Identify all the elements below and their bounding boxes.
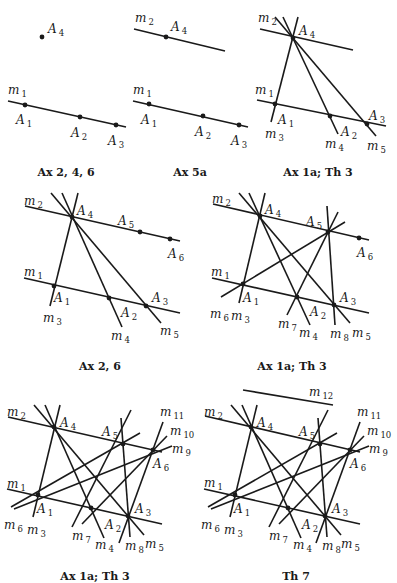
point-label-A1: A1: [242, 291, 259, 307]
point-label-A4: A4: [256, 416, 273, 432]
point-A2: [286, 506, 291, 511]
line-label-m9: m9: [172, 442, 191, 458]
panel-p4: m2m1m3m4m5A4A5A6A1A2A3Ax 2, 6: [24, 193, 184, 373]
panel-p5: m2m1m3m4m5m6m7m8A4A5A6A1A2A3Ax 1a; Th 3: [210, 192, 373, 373]
point-A1: [36, 493, 41, 498]
point-label-A6: A6: [152, 457, 169, 473]
point-A2: [201, 114, 206, 119]
line-label-m12: m12: [309, 385, 333, 401]
point-label-A5: A5: [117, 214, 134, 230]
point-label-A5: A5: [101, 425, 118, 441]
line-label-m3: m3: [231, 309, 250, 325]
point-A3: [332, 303, 337, 308]
point-label-A2: A2: [104, 518, 121, 534]
line-label-m4: m4: [111, 329, 130, 345]
line-m2: [213, 204, 369, 240]
panel-caption: Ax 1a; Th 3: [282, 166, 352, 179]
point-A4: [249, 425, 254, 430]
panel-caption: Ax 2, 4, 6: [36, 166, 95, 179]
point-A2: [107, 296, 112, 301]
panel-p6: m2m1m3m4m5m6m7m8m9m10m11A4A5A6A1A2A3Ax 1…: [4, 405, 194, 583]
figure-canvas: m1A4A1A2A3Ax 2, 4, 6m2m1A4A1A2A3Ax 5am2m…: [0, 0, 397, 583]
panel-p7: m12m2m1m3m4m5m6m7m8m9m10m11A4A5A6A1A2A3T…: [201, 385, 391, 583]
point-A5: [138, 230, 143, 235]
line-label-m2: m2: [7, 405, 26, 421]
panel-p1: m1A4A1A2A3Ax 2, 4, 6: [8, 22, 126, 179]
point-A2: [89, 506, 94, 511]
point-A1: [233, 493, 238, 498]
panel-caption: Ax 2, 6: [78, 360, 121, 373]
line-m8: [318, 418, 327, 537]
line-label-m10: m10: [367, 424, 391, 440]
line-label-m1: m1: [211, 265, 230, 281]
line-label-m1: m1: [204, 476, 223, 492]
point-label-A3: A3: [339, 291, 356, 307]
point-A2: [78, 115, 83, 120]
point-label-A1: A1: [15, 113, 32, 129]
line-label-m7: m7: [269, 529, 288, 545]
line-label-m3: m3: [27, 523, 46, 539]
line-label-m5: m5: [367, 139, 386, 155]
point-A2: [328, 114, 333, 119]
point-label-A2: A2: [194, 125, 211, 141]
line-label-m1: m1: [8, 83, 27, 99]
point-A5: [326, 230, 331, 235]
panel-p3: m2m1m3m4m5A4A1A2A3Ax 1a; Th 3: [255, 11, 386, 179]
point-A2: [295, 295, 300, 300]
point-A3: [323, 514, 328, 519]
line-label-m10: m10: [170, 424, 194, 440]
line-label-m7: m7: [278, 317, 297, 333]
point-label-A4: A4: [47, 22, 64, 38]
point-A5: [121, 442, 126, 447]
line-label-m1: m1: [24, 265, 43, 281]
point-label-A1: A1: [277, 113, 294, 129]
point-label-A2: A2: [301, 518, 318, 534]
point-A3: [237, 123, 242, 128]
line-label-m8: m8: [125, 539, 144, 555]
line-label-m11: m11: [160, 405, 184, 421]
point-A3: [126, 514, 131, 519]
point-A4: [258, 214, 263, 219]
line-m8: [121, 418, 130, 537]
point-label-A4: A4: [76, 204, 93, 220]
point-label-A1: A1: [36, 502, 53, 518]
line-label-m6: m6: [210, 307, 229, 323]
line-label-m4: m4: [299, 326, 318, 342]
panel-caption: Ax 1a; Th 3: [256, 360, 326, 373]
line-label-m4: m4: [293, 538, 312, 554]
point-A4: [70, 215, 75, 220]
point-A3: [114, 123, 119, 128]
line-label-m5: m5: [341, 537, 360, 553]
panel-caption: Th 7: [282, 570, 310, 583]
line-label-m6: m6: [201, 518, 220, 534]
panel-p2: m2m1A4A1A2A3Ax 5a: [133, 11, 248, 179]
point-A6: [168, 237, 173, 242]
line-label-m3: m3: [43, 311, 62, 327]
point-label-A3: A3: [368, 109, 385, 125]
line-m2: [25, 206, 180, 241]
point-A1: [273, 102, 278, 107]
line-label-m5: m5: [352, 326, 371, 342]
line-label-m7: m7: [72, 529, 91, 545]
point-label-A6: A6: [356, 246, 373, 262]
point-label-A4: A4: [170, 20, 187, 36]
point-label-A1: A1: [53, 291, 70, 307]
point-A3: [144, 304, 149, 309]
line-label-m3: m3: [224, 523, 243, 539]
point-A4: [52, 425, 57, 430]
point-label-A2: A2: [120, 306, 137, 322]
point-label-A5: A5: [305, 215, 322, 231]
point-A4: [40, 35, 45, 40]
point-A4: [291, 36, 296, 41]
point-A1: [241, 282, 246, 287]
point-label-A5: A5: [298, 425, 315, 441]
point-label-A3: A3: [151, 291, 168, 307]
point-label-A4: A4: [264, 203, 281, 219]
line-label-m2: m2: [24, 194, 43, 210]
line-label-m1: m1: [255, 83, 274, 99]
line-label-m4: m4: [325, 137, 344, 153]
geometry-figure: m1A4A1A2A3Ax 2, 4, 6m2m1A4A1A2A3Ax 5am2m…: [0, 0, 397, 583]
point-A4: [164, 35, 169, 40]
point-A1: [52, 284, 57, 289]
point-label-A2: A2: [309, 305, 326, 321]
